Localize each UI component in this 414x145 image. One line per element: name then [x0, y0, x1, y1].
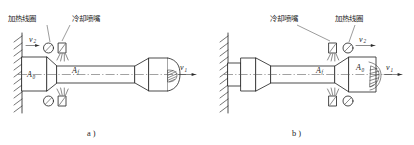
panel-b-velocity-draw-arrow — [384, 73, 402, 76]
panel-b-area-initial-label: A — [355, 63, 361, 72]
panel-a-leader-heating-coil — [47, 25, 50, 42]
panel-a-area-initial-sub: 0 — [33, 74, 36, 80]
panel-b-heating-coil-top — [343, 43, 353, 53]
figure-canvas: 加热线圈 冷却喷嘴 v 2 v 1 A 0 A f a ) — [0, 0, 414, 145]
panel-a-heating-coil-label: 加热线圈 — [8, 14, 36, 23]
panel-b: 冷却喷嘴 加热线圈 v 2 v 1 A f A 0 b ) — [220, 14, 402, 138]
panel-b-leader-heating-coil — [349, 25, 355, 42]
panel-a-cooling-nozzle-label: 冷却喷嘴 — [72, 14, 101, 23]
panel-a-velocity-draw-arrow — [178, 73, 196, 76]
panel-b-caption: b ) — [292, 129, 301, 138]
panel-b-area-initial-sub: 0 — [362, 67, 365, 73]
panel-b-velocity-feed-arrow — [356, 44, 375, 47]
panel-a-heating-coil-bottom — [44, 96, 54, 106]
panel-a-velocity-feed-arrow — [26, 44, 39, 47]
panel-a-cooling-nozzle-top — [57, 43, 68, 61]
panel-a-area-final-label: A — [71, 66, 77, 75]
panel-b-leader-cooling-nozzle — [297, 25, 330, 41]
panel-b-velocity-feed-sub: 2 — [364, 38, 367, 44]
panel-a-cooling-nozzle-bottom — [57, 88, 68, 106]
panel-b-area-final-label: A — [315, 66, 321, 75]
panel-b-velocity-draw-sub: 1 — [391, 67, 394, 73]
panel-b-cooling-nozzle-top — [328, 43, 339, 61]
technical-figure: 加热线圈 冷却喷嘴 v 2 v 1 A 0 A f a ) — [0, 0, 414, 145]
panel-a-heating-coil-top — [44, 43, 54, 53]
panel-b-cooling-nozzle-bottom — [328, 88, 339, 106]
panel-a-workpiece — [22, 57, 180, 91]
panel-a-leader-cooling-nozzle — [62, 25, 70, 41]
panel-a-fixed-wall — [14, 33, 22, 113]
panel-a-velocity-feed-label: v — [29, 35, 33, 44]
panel-a-velocity-draw-label: v — [180, 63, 184, 72]
panel-b-velocity-feed-label: v — [359, 35, 363, 44]
panel-b-fixed-wall — [220, 33, 228, 113]
panel-a-caption: a ) — [87, 129, 96, 138]
panel-b-cooling-nozzle-label: 冷却喷嘴 — [270, 14, 299, 23]
panel-a-velocity-feed-sub: 2 — [34, 38, 37, 44]
panel-b-heating-coil-label: 加热线圈 — [335, 14, 363, 23]
panel-a-velocity-draw-sub: 1 — [185, 67, 188, 73]
panel-a: 加热线圈 冷却喷嘴 v 2 v 1 A 0 A f a ) — [8, 14, 196, 138]
panel-a-area-initial-label: A — [26, 70, 32, 79]
panel-b-velocity-draw-label: v — [386, 63, 390, 72]
panel-b-heating-coil-bottom — [343, 96, 353, 106]
